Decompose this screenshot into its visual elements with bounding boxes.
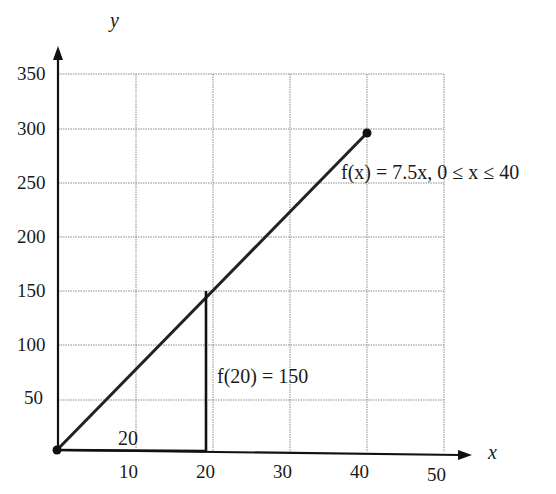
y-tick-300: 300 bbox=[17, 119, 46, 138]
x-tick-30: 30 bbox=[273, 462, 292, 481]
f20-annotation: f(20) = 150 bbox=[217, 366, 308, 386]
y-axis-label: y bbox=[110, 10, 119, 30]
x-tick-40: 40 bbox=[350, 462, 369, 481]
chart-canvas bbox=[0, 0, 556, 494]
x-tick-10: 10 bbox=[119, 462, 138, 481]
y-tick-250: 250 bbox=[17, 173, 46, 192]
x-axis-label: x bbox=[488, 442, 497, 462]
y-tick-100: 100 bbox=[17, 335, 46, 354]
base-length-label: 20 bbox=[118, 428, 138, 448]
y-tick-150: 150 bbox=[17, 281, 46, 300]
x-tick-20: 20 bbox=[196, 462, 215, 481]
y-tick-200: 200 bbox=[17, 227, 46, 246]
y-tick-350: 350 bbox=[17, 64, 46, 83]
function-annotation: f(x) = 7.5x, 0 ≤ x ≤ 40 bbox=[341, 162, 519, 182]
axes bbox=[53, 46, 472, 460]
x-tick-50: 50 bbox=[427, 465, 446, 484]
y-tick-50: 50 bbox=[24, 388, 43, 407]
grid bbox=[58, 74, 444, 452]
